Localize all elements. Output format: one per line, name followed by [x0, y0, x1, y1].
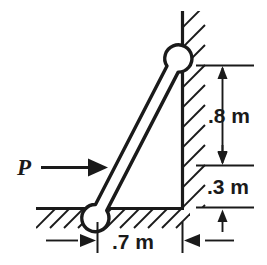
floor-group [36, 206, 198, 228]
dim-label-07: .7 m [112, 230, 154, 253]
wall-hatching [182, 5, 205, 228]
dim-label-03: .3 m [207, 175, 249, 198]
dim-arrow-down-03 [218, 151, 228, 164]
dim-arrow-up-08 [218, 66, 228, 79]
rod-body [82, 45, 192, 232]
force-arrow-head [88, 159, 108, 177]
dimension-horizontal: .7 m [46, 222, 234, 253]
wall-group [182, 5, 205, 228]
force-p-group: P [16, 155, 108, 180]
force-label-p: P [16, 155, 32, 180]
dim-arrow-left-07 [184, 234, 200, 247]
dim-arrow-right-07 [80, 234, 96, 247]
dimension-vertical-upper: .8 m [196, 66, 254, 166]
figure-container: P .8 m .3 m [0, 0, 267, 265]
rod-outline [82, 45, 192, 232]
statics-diagram: P .8 m .3 m [0, 0, 267, 265]
dim-label-08: .8 m [208, 104, 250, 127]
dim-arrow-up-03 [218, 210, 228, 223]
